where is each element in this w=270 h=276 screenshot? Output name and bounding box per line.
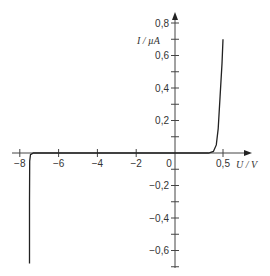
y-tick-label: 0,2 bbox=[155, 115, 169, 126]
x-tick-label: −2 bbox=[130, 158, 142, 169]
x-tick-label: 0 bbox=[166, 158, 172, 169]
y-tick-label: −0,2 bbox=[149, 180, 169, 191]
y-tick-label: −0,4 bbox=[149, 213, 169, 224]
x-tick-label: −4 bbox=[92, 158, 104, 169]
x-tick-label: −6 bbox=[53, 158, 65, 169]
y-axis-title: I / µA bbox=[136, 35, 161, 46]
x-axis-arrow-icon bbox=[244, 150, 252, 156]
x-ticks: −8−6−4−200,5 bbox=[14, 149, 230, 169]
y-tick-label: 0,4 bbox=[155, 83, 169, 94]
y-tick-label: 0,6 bbox=[155, 50, 169, 61]
y-tick-label: −0,6 bbox=[149, 245, 169, 256]
x-axis-title: U / V bbox=[236, 159, 259, 170]
y-tick-label: 0,8 bbox=[155, 18, 169, 29]
diode-characteristic-chart: −8−6−4−200,5 0,80,60,40,2−0,2−0,4−0,6 U … bbox=[0, 0, 270, 276]
x-tick-label: 0,5 bbox=[216, 158, 230, 169]
y-axis-arrow-icon bbox=[172, 12, 178, 20]
y-axis bbox=[172, 12, 178, 268]
x-tick-label: −8 bbox=[14, 158, 26, 169]
